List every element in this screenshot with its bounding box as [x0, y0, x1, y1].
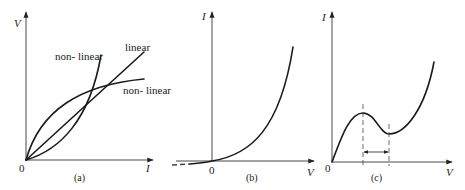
y-axis-label-a: V: [14, 17, 22, 29]
label-nonlinear-steep: non- linear: [55, 50, 103, 62]
x-axis-label-a: I: [145, 162, 151, 174]
panel-c: I V 0 (c): [321, 11, 454, 184]
curve-linear: [26, 52, 144, 160]
origin-label-b: 0: [209, 164, 215, 176]
label-linear: linear: [125, 41, 150, 53]
curve-reverse-dashed: [172, 164, 190, 165]
origin-label-a: 0: [19, 162, 25, 174]
curve-negative-resistance: [332, 62, 434, 162]
label-nonlinear-concave: non- linear: [123, 84, 171, 96]
caption-c: (c): [371, 172, 382, 184]
panel-b: I V 0 (b): [172, 10, 315, 184]
x-axis-label-b: V: [307, 166, 315, 178]
curve-nonlinear-steep: [26, 55, 101, 160]
iv-characteristics-figure: V I 0 non- linear linear non- linear (a)…: [0, 0, 465, 190]
y-axis-label-b: I: [201, 10, 207, 22]
x-axis-label-c: V: [446, 166, 454, 178]
caption-b: (b): [246, 172, 258, 184]
curve-exponential: [190, 47, 293, 164]
origin-label-c: 0: [325, 162, 331, 174]
panel-a: V I 0 non- linear linear non- linear (a): [14, 12, 171, 184]
caption-a: (a): [74, 172, 85, 184]
y-axis-label-c: I: [321, 11, 327, 23]
